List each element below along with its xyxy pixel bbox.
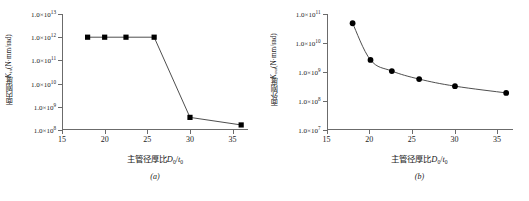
data-point (503, 90, 509, 96)
y-tick-label-b-3: 1.0×108 (298, 96, 320, 106)
x-axis-title-b-cjk: 主管径厚比 (391, 154, 431, 164)
x-tick-a-0 (62, 130, 63, 134)
y-tick-label-a-3: 1.0×1010 (31, 78, 56, 88)
plot-area-b: 1.0×1011 1.0×1010 1.0×109 1.0×108 1.0×10… (327, 14, 513, 130)
x-tick-b-1 (369, 130, 370, 134)
data-series-a (62, 14, 248, 130)
data-point (349, 20, 355, 26)
plot-area-a: 1.0×1013 1.0×1012 1.0×1011 1.0×1010 1.0×… (62, 14, 248, 130)
x-axis-title-a-num-sub: 0 (173, 159, 176, 165)
data-point (367, 57, 373, 63)
data-series-b (327, 14, 513, 130)
x-tick-a-4 (233, 130, 234, 134)
x-tick-label-a-0: 15 (58, 135, 66, 144)
y-tick-label-a-0: 1.0×1013 (31, 9, 56, 19)
y-tick-label-b-2: 1.0×109 (298, 67, 320, 77)
y-axis-title-a-subscript: in (8, 69, 13, 73)
y-axis-title-b-cjk: 面外刚度 (271, 79, 278, 107)
series-line-a (88, 37, 242, 125)
y-tick-label-a-2: 1.0×1011 (31, 55, 56, 65)
x-tick-label-a-1: 20 (101, 135, 109, 144)
y-tick-label-a-5: 1.0×108 (34, 125, 56, 135)
y-tick-label-a-1: 1.0×1012 (31, 32, 56, 42)
y-tick-label-b-1: 1.0×1010 (296, 38, 321, 48)
x-tick-b-0 (327, 130, 328, 134)
data-point (187, 115, 192, 120)
figure-container: 面内刚度Kin(N·mm/rad) 1.0×1013 1.0×1012 1.0×… (0, 0, 529, 201)
y-axis-title-b-symbol: K (271, 74, 278, 79)
x-tick-a-3 (190, 130, 191, 134)
x-tick-label-a-4: 35 (229, 135, 237, 144)
y-axis-title-a-symbol: K (6, 73, 13, 78)
x-axis-title-a-cjk: 主管径厚比 (127, 154, 167, 164)
data-point (416, 76, 422, 82)
data-point (123, 35, 128, 40)
y-tick-label-b-0: 1.0×1011 (296, 9, 321, 19)
x-tick-a-1 (105, 130, 106, 134)
x-tick-a-2 (147, 130, 148, 134)
y-axis-title-a-cjk: 面内刚度 (6, 78, 13, 106)
data-point (85, 35, 90, 40)
x-tick-b-3 (455, 130, 456, 134)
y-axis-title-b: 面外刚度Kout(N·mm/rad) (267, 0, 283, 140)
x-axis-title-a-den-sub: 0 (180, 159, 183, 165)
x-tick-label-b-4: 35 (493, 135, 501, 144)
x-tick-label-b-3: 30 (451, 135, 459, 144)
x-axis-title-b-num-sub: 0 (437, 159, 440, 165)
data-point (388, 68, 394, 74)
data-point (102, 35, 107, 40)
data-point (239, 122, 244, 127)
y-tick-label-b-4: 1.0×107 (298, 125, 320, 135)
series-line-b (352, 23, 506, 93)
x-tick-label-b-1: 20 (365, 135, 373, 144)
x-tick-label-a-3: 30 (186, 135, 194, 144)
y-tick-label-a-4: 1.0×109 (34, 102, 56, 112)
data-point (152, 35, 157, 40)
series-markers-a (85, 35, 244, 128)
x-axis-title-b: 主管径厚比D0/t0 (327, 152, 513, 164)
x-tick-label-b-2: 25 (408, 135, 416, 144)
panel-caption-b: (b) (327, 172, 513, 181)
y-axis-title-a-unit: (N·mm/rad) (6, 34, 13, 69)
x-tick-b-2 (412, 130, 413, 134)
x-tick-b-4 (497, 130, 498, 134)
series-markers-b (349, 20, 508, 95)
x-axis-title-a-num: D (167, 155, 173, 164)
panel-caption-a: (a) (62, 172, 248, 181)
y-axis-title-b-unit: (N·mm/rad) (271, 33, 278, 68)
chart-panel-a: 面内刚度Kin(N·mm/rad) 1.0×1013 1.0×1012 1.0×… (0, 0, 265, 201)
x-axis-title-b-den-sub: 0 (445, 159, 448, 165)
x-tick-label-b-0: 15 (323, 135, 331, 144)
y-axis-title-a: 面内刚度Kin(N·mm/rad) (2, 0, 18, 140)
y-axis-title-b-subscript: out (272, 68, 277, 74)
chart-panel-b: 面外刚度Kout(N·mm/rad) 1.0×1011 1.0×1010 1.0… (265, 0, 529, 201)
x-tick-label-a-2: 25 (143, 135, 151, 144)
x-axis-title-a: 主管径厚比D0/t0 (62, 152, 248, 164)
data-point (452, 83, 458, 89)
